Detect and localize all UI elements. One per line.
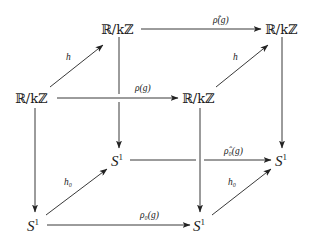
node-top-front-right: ℝ/kℤ: [182, 91, 215, 106]
node-bottom-back-left: S1: [111, 152, 123, 169]
node-top-front-left: ℝ/kℤ: [15, 91, 48, 106]
label-top-back: ρ̂(g): [212, 15, 229, 26]
label-bottom-right-diag: h₀: [228, 177, 236, 187]
node-bottom-back-right: S1: [275, 152, 287, 169]
label-bottom-front: ρ₀(g): [139, 210, 159, 221]
arrow-top-right-diag: [216, 45, 268, 87]
label-top-left-diag: h: [66, 52, 71, 62]
node-bottom-front-right: S1: [193, 217, 205, 234]
node-bottom-front-left: S1: [27, 217, 39, 234]
label-top-front: ρ(g): [134, 83, 151, 94]
node-top-back-right: ℝ/kℤ: [265, 22, 298, 37]
node-top-back-left: ℝ/kℤ: [101, 22, 134, 37]
commutative-cube-diagram: ℝ/kℤ ℝ/kℤ ℝ/kℤ ℝ/kℤ S1 S1 S1 S1 ρ̂(g) ρ(…: [0, 0, 312, 238]
arrow-bottom-left-diag: [46, 169, 107, 215]
arrow-bottom-right-diag: [212, 169, 271, 215]
label-bottom-back: ρ̂₀(g): [223, 146, 243, 157]
label-top-right-diag: h: [233, 52, 238, 62]
arrow-top-left-diag: [50, 45, 103, 87]
label-bottom-left-diag: h₀: [64, 177, 72, 187]
